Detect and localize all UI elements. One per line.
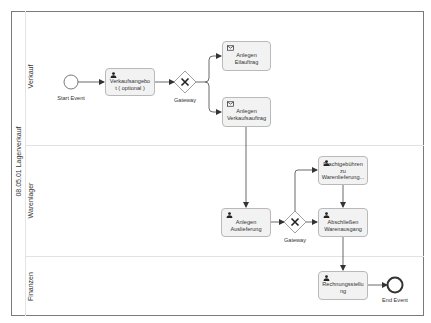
gateway-1-label: Gateway [171, 97, 199, 103]
start-event-circle[interactable] [64, 75, 78, 89]
task-label-line: Warenausgang [321, 226, 365, 233]
task-abschliessen-warenausgang[interactable]: Abschließen Warenausgang [318, 208, 368, 237]
task-label-line: Frachtgebühren [321, 161, 365, 168]
task-label-line: t ( optional ) [108, 85, 152, 92]
user-icon [323, 212, 330, 218]
end-event-circle[interactable] [388, 278, 403, 293]
exclusive-gateway-1[interactable] [174, 71, 196, 93]
task-rechnungsstellung[interactable]: Rechnungsstellu ng [318, 271, 368, 300]
envelope-icon [227, 101, 234, 107]
task-label-line: Auslieferung [224, 226, 268, 233]
flow-gateway-to-frachtgebuehren[interactable] [295, 170, 317, 211]
end-event-label: End Event [379, 297, 411, 303]
gateway-2-label: Gateway [281, 237, 309, 243]
envelope-icon [227, 45, 234, 51]
task-label-line: Rechnungsstellu [321, 281, 365, 288]
task-anlegen-verkaufsauftrag[interactable]: Anlegen Verkaufsauftrag [222, 97, 271, 127]
task-verkaufsangebot[interactable]: Verkaufsangebo t ( optional ) [105, 68, 155, 96]
task-anlegen-eilauftrag[interactable]: Anlegen Eilauftrag [222, 41, 271, 71]
task-label-line: Verkaufsauftrag [225, 115, 268, 122]
task-anlegen-auslieferung[interactable]: Anlegen Auslieferung [221, 208, 271, 237]
flow-gateway-to-eilauftrag[interactable] [195, 56, 221, 82]
task-label-line: Warenlieferung... [321, 174, 365, 181]
user-icon [226, 212, 233, 218]
task-label-line: Verkaufsangebo [108, 78, 152, 85]
task-label-line: Eilauftrag [225, 59, 268, 66]
task-label-line: ng [321, 288, 365, 295]
task-frachtgebuehren[interactable]: Frachtgebühren zu Warenlieferung... [318, 156, 368, 185]
start-event-label: Start Event [55, 95, 87, 101]
bpmn-canvas: 08.05.01 Lagerverkauf Verkauf Warenlager… [0, 0, 431, 323]
flow-gateway-to-verkaufsauftrag[interactable] [205, 82, 221, 112]
exclusive-gateway-2[interactable] [284, 211, 306, 233]
